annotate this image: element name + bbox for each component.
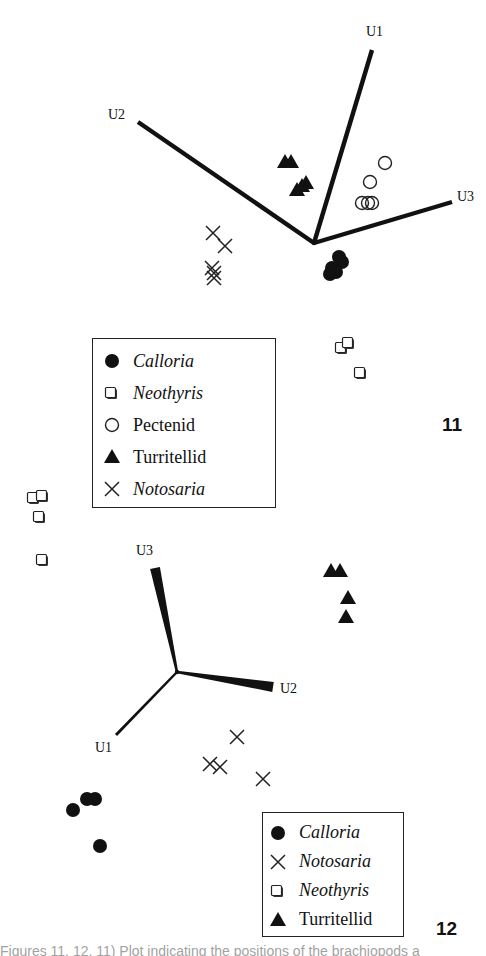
legend-item-calloria: Calloria bbox=[101, 345, 275, 377]
neothyris-point bbox=[355, 368, 367, 380]
neothyris-point bbox=[34, 512, 46, 524]
notosaria-point bbox=[256, 772, 270, 786]
figure-12-points bbox=[28, 491, 357, 854]
calloria-point bbox=[323, 267, 337, 281]
legend-label: Turritellid bbox=[133, 447, 206, 468]
legend-label: Turritellid bbox=[299, 909, 372, 930]
neothyris-point bbox=[343, 338, 355, 350]
figure-11-number: 11 bbox=[442, 414, 462, 436]
legend-item-turritellid: Turritellid bbox=[267, 905, 403, 934]
axis-label-u2: U2 bbox=[108, 107, 125, 122]
legend-label: Calloria bbox=[299, 822, 360, 843]
axis-label-u2: U2 bbox=[280, 681, 297, 696]
notosaria-point bbox=[218, 239, 232, 253]
legend-item-neothyris: Neothyris bbox=[101, 377, 275, 409]
figure-12-number: 12 bbox=[436, 918, 457, 940]
pectenid-point bbox=[379, 157, 392, 170]
legend-item-pectenid: Pectenid bbox=[101, 409, 275, 441]
legend-label: Notosaria bbox=[133, 479, 205, 500]
axis-vector-u3 bbox=[150, 567, 178, 672]
open-square-icon bbox=[101, 383, 123, 403]
axis-label-u1: U1 bbox=[95, 740, 112, 755]
axis-vector-u3 bbox=[313, 200, 452, 245]
axis-label-u1: U1 bbox=[366, 24, 383, 39]
cross-icon bbox=[101, 479, 123, 499]
notosaria-point bbox=[203, 757, 217, 771]
legend-label: Neothyris bbox=[299, 880, 369, 901]
filled-triangle-icon bbox=[267, 910, 289, 930]
pectenid-point bbox=[364, 176, 377, 189]
calloria-point bbox=[66, 803, 80, 817]
legend-item-neothyris: Neothyris bbox=[267, 876, 403, 905]
figure-caption: Figures 11, 12. 11) Plot indicating the … bbox=[0, 942, 486, 956]
axis-vector-u1 bbox=[115, 671, 178, 736]
legend-label: Pectenid bbox=[133, 415, 195, 436]
notosaria-point bbox=[206, 226, 220, 240]
axis-label-u3: U3 bbox=[136, 543, 153, 558]
turritellid-point bbox=[340, 590, 356, 604]
cross-icon bbox=[267, 852, 289, 872]
neothyris-point bbox=[37, 491, 49, 503]
axis-label-u3: U3 bbox=[457, 189, 474, 204]
axis-vector-u1 bbox=[312, 49, 374, 243]
legend-label: Neothyris bbox=[133, 383, 203, 404]
legend-item-notosaria: Notosaria bbox=[101, 473, 275, 505]
axis-vector-u2 bbox=[137, 120, 315, 245]
legend-label: Calloria bbox=[133, 351, 194, 372]
figure-12-legend: CalloriaNotosariaNeothyrisTurritellid bbox=[262, 812, 404, 937]
filled-circle-icon bbox=[267, 823, 289, 843]
legend-item-notosaria: Notosaria bbox=[267, 847, 403, 876]
filled-circle-icon bbox=[101, 351, 123, 371]
notosaria-point bbox=[205, 261, 219, 275]
legend-label: Notosaria bbox=[299, 851, 371, 872]
notosaria-point bbox=[230, 730, 244, 744]
filled-triangle-icon bbox=[101, 447, 123, 467]
figure-12-axes: U3U2U1 bbox=[95, 543, 297, 755]
turritellid-point bbox=[338, 609, 354, 623]
calloria-point bbox=[88, 792, 102, 806]
figure-11-axes: U1U2U3 bbox=[108, 24, 474, 245]
axis-vector-u2 bbox=[177, 671, 274, 692]
legend-item-turritellid: Turritellid bbox=[101, 441, 275, 473]
calloria-point bbox=[93, 839, 107, 853]
neothyris-point bbox=[37, 555, 49, 567]
open-square-icon bbox=[267, 881, 289, 901]
legend-item-calloria: Calloria bbox=[267, 818, 403, 847]
open-circle-icon bbox=[101, 415, 123, 435]
notosaria-point bbox=[213, 760, 227, 774]
figure-11-legend: CalloriaNeothyrisPectenidTurritellidNoto… bbox=[92, 338, 276, 508]
